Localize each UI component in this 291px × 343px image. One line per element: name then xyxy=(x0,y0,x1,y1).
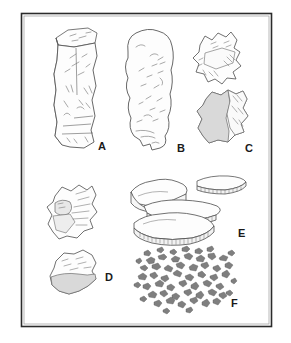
specimen-d-upper-inner-scar xyxy=(55,200,72,215)
figure-plate: A xyxy=(0,0,291,343)
specimen-label-f: F xyxy=(231,297,238,309)
specimen-label-e: E xyxy=(238,227,245,239)
specimen-label-d: D xyxy=(105,271,113,283)
specimen-e-slab-4 xyxy=(134,213,214,246)
specimen-label-b: B xyxy=(177,142,185,154)
lithic-specimen-plate: A xyxy=(0,0,291,343)
specimen-a-body xyxy=(54,43,97,148)
specimen-b-body xyxy=(126,29,174,150)
specimen-label-a: A xyxy=(98,140,106,152)
specimen-label-c: C xyxy=(245,142,253,154)
